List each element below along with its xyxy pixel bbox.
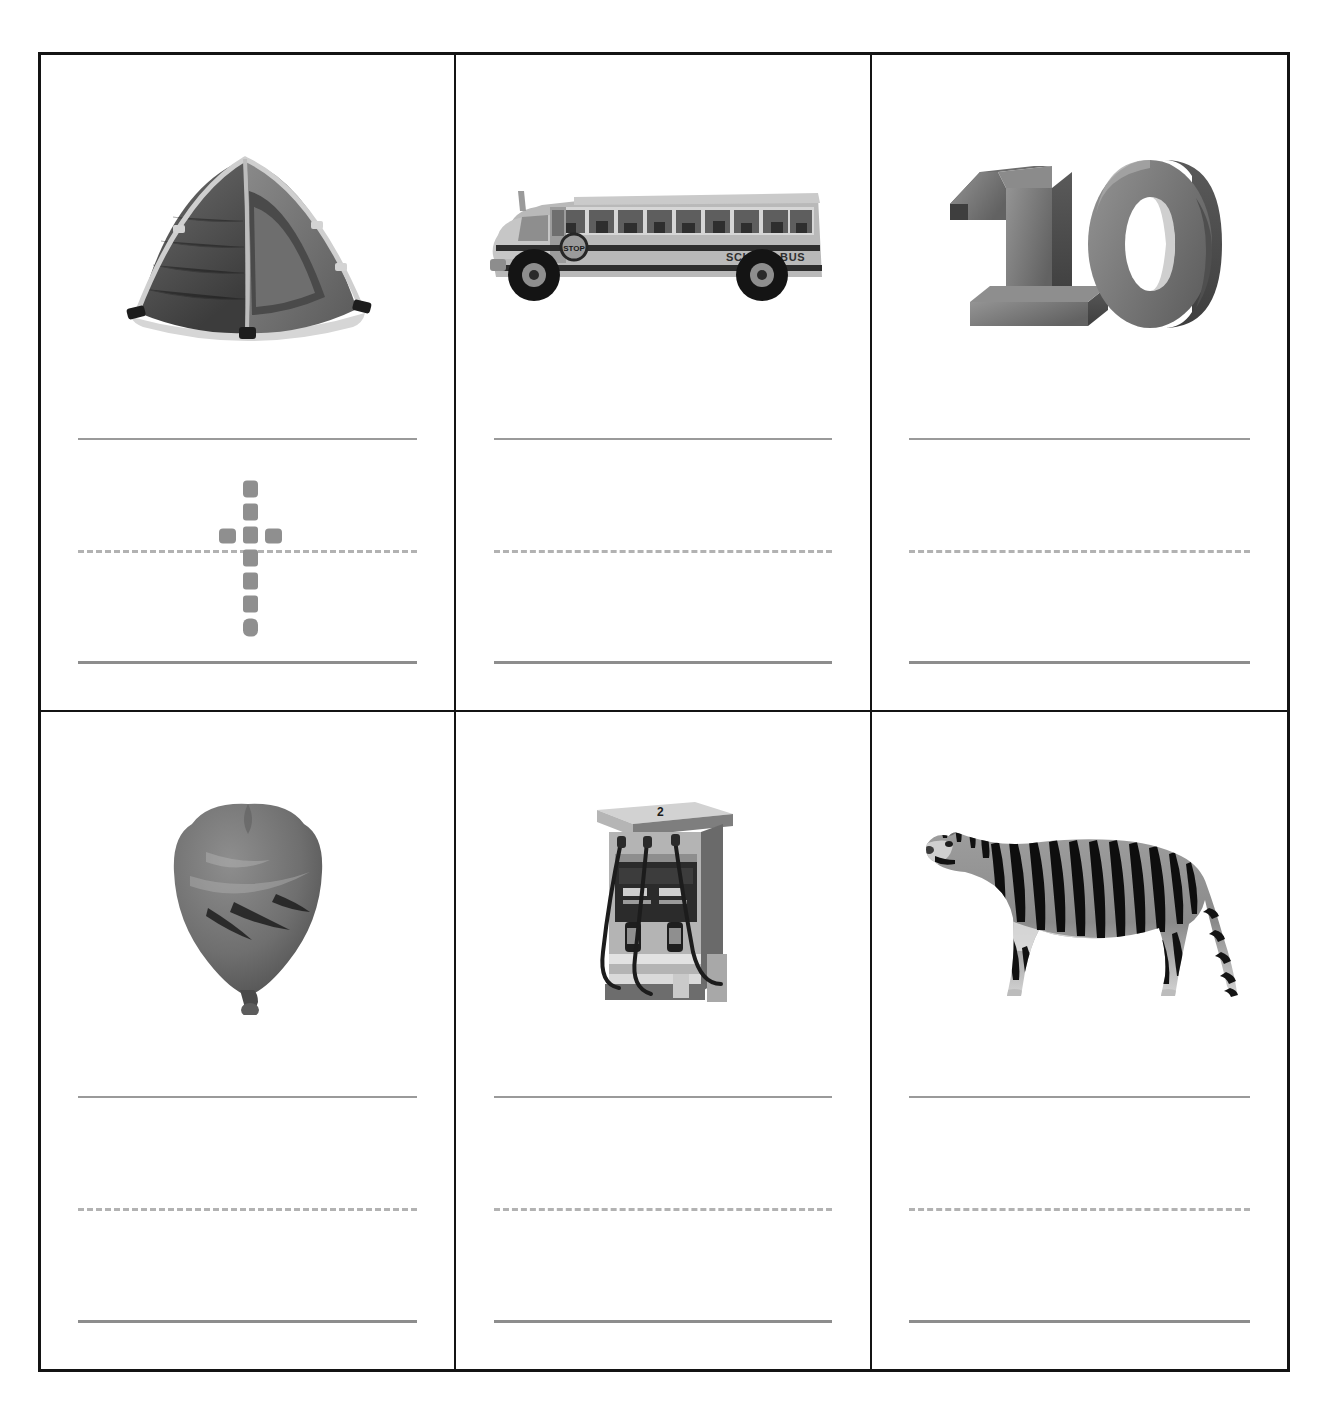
- number-ten-icon: [934, 132, 1224, 357]
- worksheet-cell-gas-pump[interactable]: 2: [456, 712, 871, 1369]
- writing-lines-tiger: [909, 1096, 1250, 1319]
- worksheet-cell-tent[interactable]: [41, 55, 456, 712]
- balloon-icon: [148, 790, 348, 1015]
- school-bus-picture-area: SCHOOL BUS STOP: [456, 55, 869, 435]
- rule-top-line: [909, 438, 1250, 440]
- rule-middle-dashed-line: [909, 550, 1250, 553]
- tiger-picture-area: [872, 712, 1287, 1093]
- rule-baseline: [909, 1320, 1250, 1323]
- rule-top-line: [494, 438, 833, 440]
- balloon-picture-area: [41, 712, 454, 1093]
- rule-top-line: [494, 1096, 833, 1098]
- worksheet-cell-balloon[interactable]: [41, 712, 456, 1369]
- writing-lines-school-bus: [494, 438, 833, 661]
- writing-lines-number-ten: [909, 438, 1250, 661]
- svg-text:STOP: STOP: [563, 244, 585, 253]
- rule-baseline: [78, 661, 417, 664]
- writing-lines-tent: [78, 438, 417, 661]
- tiger-icon: [909, 790, 1249, 1015]
- school-bus-icon: SCHOOL BUS STOP: [478, 165, 848, 325]
- worksheet-cell-number-ten[interactable]: [872, 55, 1287, 712]
- rule-top-line: [909, 1096, 1250, 1098]
- dotted-letter-t-icon: [207, 456, 297, 661]
- rule-baseline: [494, 661, 833, 664]
- worksheet-page: SCHOOL BUS STOP: [0, 0, 1327, 1422]
- pump-number-label: 2: [657, 805, 664, 819]
- rule-baseline: [909, 661, 1250, 664]
- gas-pump-icon: 2: [575, 788, 750, 1018]
- rule-middle-dashed-line: [494, 1208, 833, 1211]
- tent-icon: [113, 137, 383, 352]
- tent-picture-area: [41, 55, 454, 435]
- gas-pump-picture-area: 2: [456, 712, 869, 1093]
- worksheet-grid: SCHOOL BUS STOP: [38, 52, 1290, 1372]
- rule-top-line: [78, 438, 417, 440]
- rule-top-line: [78, 1096, 417, 1098]
- rule-baseline: [78, 1320, 417, 1323]
- writing-lines-gas-pump: [494, 1096, 833, 1319]
- rule-middle-dashed-line: [909, 1208, 1250, 1211]
- rule-middle-dashed-line: [78, 1208, 417, 1211]
- rule-middle-dashed-line: [494, 550, 833, 553]
- writing-lines-balloon: [78, 1096, 417, 1319]
- worksheet-cell-tiger[interactable]: [872, 712, 1287, 1369]
- stop-sign-icon: STOP: [561, 234, 587, 260]
- number-ten-picture-area: [872, 55, 1287, 435]
- worksheet-cell-school-bus[interactable]: SCHOOL BUS STOP: [456, 55, 871, 712]
- rule-middle-dashed-line: [78, 550, 417, 553]
- rule-baseline: [494, 1320, 833, 1323]
